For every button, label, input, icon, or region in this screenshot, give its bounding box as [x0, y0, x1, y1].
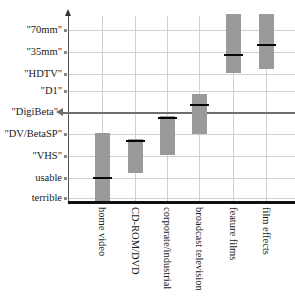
- y-tick-usable: [64, 177, 67, 180]
- median-marker-home-video: [93, 177, 112, 179]
- range-bar-corporate-industrial: [160, 116, 175, 155]
- range-bar-home-video: [95, 133, 110, 201]
- x-tick-label-feature-films: feature films: [228, 207, 238, 260]
- y-tick-vhs: [64, 155, 67, 158]
- range-bar-film-effects: [259, 14, 274, 69]
- y-tick-35mm: [64, 51, 67, 54]
- x-tick-label-broadcast-television: broadcast television: [194, 207, 204, 291]
- range-bar-cdrom-dvd: [128, 139, 143, 173]
- y-tick-label-digibeta: "DigiBeta": [12, 107, 58, 117]
- range-bar-broadcast-television: [192, 94, 207, 134]
- y-tick-label-hdtv: "HDTV": [24, 69, 62, 79]
- x-tick-label-film-effects: film effects: [261, 207, 271, 255]
- y-tick-dvbetasp: [64, 133, 67, 136]
- digibeta-reference-line: [62, 112, 295, 114]
- y-axis-line: [68, 14, 69, 202]
- y-tick-label-35mm: "35mm": [27, 47, 62, 57]
- quality-range-chart: "70mm" "35mm" "HDTV" "D1" "DigiBeta" "DV…: [0, 0, 295, 300]
- range-bar-feature-films: [226, 14, 241, 73]
- y-tick-label-dvbetasp: "DV/BetaSP": [4, 129, 62, 139]
- median-marker-broadcast-television: [190, 104, 209, 106]
- y-tick-label-vhs: "VHS": [32, 151, 62, 161]
- x-tick-label-home-video: home video: [97, 207, 107, 256]
- digibeta-reference-arrow-icon: [56, 108, 63, 116]
- y-tick-label-usable: usable: [35, 173, 62, 183]
- y-tick-label-terrible: terrible: [32, 193, 62, 203]
- y-tick-d1: [64, 90, 67, 93]
- median-marker-film-effects: [257, 44, 276, 46]
- x-tick-label-corporate-industrial: corporate/industrial: [162, 207, 172, 289]
- x-axis-line: [68, 201, 295, 204]
- median-marker-feature-films: [224, 54, 243, 56]
- y-tick-terrible: [64, 197, 67, 200]
- y-tick-hdtv: [64, 73, 67, 76]
- y-axis-arrow-icon: [65, 9, 71, 16]
- median-marker-corporate-industrial: [158, 117, 177, 119]
- median-marker-cdrom-dvd: [126, 140, 145, 142]
- y-tick-70mm: [64, 29, 67, 32]
- y-tick-label-d1: "D1": [41, 86, 62, 96]
- x-tick-label-cdrom-dvd: CD-ROM/DVD: [130, 207, 140, 275]
- gridline-v-cdrom-dvd: [135, 16, 136, 201]
- y-tick-label-70mm: "70mm": [27, 25, 62, 35]
- gridline-v-corporate-industrial: [167, 16, 168, 201]
